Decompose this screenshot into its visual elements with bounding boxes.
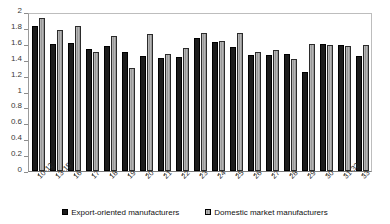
y-axis-tick-label: 1.4 bbox=[11, 55, 22, 63]
y-axis-tick-label: 1 bbox=[18, 87, 22, 95]
x-axis-tick: 22 bbox=[173, 173, 191, 203]
bar-export bbox=[32, 26, 38, 171]
bar-domestic bbox=[93, 52, 99, 171]
bar-group bbox=[353, 14, 371, 171]
x-axis-tick: 30 bbox=[317, 173, 335, 203]
bar-domestic bbox=[309, 44, 315, 171]
legend-swatch-domestic-icon bbox=[205, 209, 211, 215]
bar-domestic bbox=[273, 50, 279, 171]
bar-domestic bbox=[327, 45, 333, 171]
bar-group bbox=[335, 14, 353, 171]
x-axis-tick: 24 bbox=[209, 173, 227, 203]
y-axis-tick-label: 2 bbox=[18, 7, 22, 15]
bar-group bbox=[173, 14, 191, 171]
x-axis-tick: 21 bbox=[155, 173, 173, 203]
bar-domestic bbox=[201, 33, 207, 171]
bar-export bbox=[122, 52, 128, 171]
bar-export bbox=[68, 43, 74, 171]
bar-export bbox=[356, 56, 362, 171]
bar-export bbox=[212, 42, 218, 171]
bar-domestic bbox=[255, 52, 261, 171]
x-axis-tick: 16 bbox=[65, 173, 83, 203]
bar-group bbox=[263, 14, 281, 171]
bar-series-container bbox=[29, 14, 371, 171]
x-axis-tick: 25 bbox=[227, 173, 245, 203]
bar-domestic bbox=[129, 68, 135, 171]
bar-group bbox=[245, 14, 263, 171]
bar-export bbox=[50, 44, 56, 171]
bar-domestic bbox=[111, 36, 117, 171]
bar-group bbox=[65, 14, 83, 171]
y-axis-tick-label: 1.2 bbox=[11, 71, 22, 79]
bar-export bbox=[104, 46, 110, 171]
bar-group bbox=[83, 14, 101, 171]
x-axis-tick: 27 bbox=[263, 173, 281, 203]
bar-chart: 00.20.40.60.811.21.41.61.82 10-1213-1516… bbox=[0, 0, 390, 224]
x-axis-tick: 28 bbox=[281, 173, 299, 203]
y-axis-tick-label: 0.6 bbox=[11, 118, 22, 126]
y-axis-tick-label: 0.2 bbox=[11, 150, 22, 158]
chart-legend: Export-oriented manufacturers Domestic m… bbox=[0, 203, 390, 221]
bar-export bbox=[320, 44, 326, 171]
bar-export bbox=[176, 57, 182, 171]
x-axis-tick: 17 bbox=[83, 173, 101, 203]
x-axis-tick: 18 bbox=[101, 173, 119, 203]
x-axis-tick: 13-15 bbox=[47, 173, 65, 203]
y-axis-tick-label: 0 bbox=[18, 166, 22, 174]
bar-group bbox=[299, 14, 317, 171]
bar-domestic bbox=[363, 45, 369, 171]
x-axis-tick: 26 bbox=[245, 173, 263, 203]
x-axis-tick: 33 bbox=[353, 173, 371, 203]
bar-export bbox=[284, 54, 290, 171]
bar-domestic bbox=[165, 54, 171, 171]
bar-group bbox=[281, 14, 299, 171]
bar-group bbox=[137, 14, 155, 171]
x-axis-tick: 23 bbox=[191, 173, 209, 203]
legend-item-domestic: Domestic market manufacturers bbox=[205, 208, 327, 217]
bar-export bbox=[266, 55, 272, 171]
bar-domestic bbox=[57, 30, 63, 171]
legend-swatch-export-icon bbox=[62, 209, 68, 215]
x-axis-tick: 31-32 bbox=[335, 173, 353, 203]
bar-group bbox=[101, 14, 119, 171]
y-axis-tick-label: 0.4 bbox=[11, 134, 22, 142]
bar-group bbox=[317, 14, 335, 171]
bar-domestic bbox=[75, 26, 81, 171]
y-axis-tick-label: 0.8 bbox=[11, 102, 22, 110]
bar-group bbox=[209, 14, 227, 171]
bar-domestic bbox=[39, 18, 45, 171]
bar-export bbox=[230, 47, 236, 171]
bar-export bbox=[158, 58, 164, 171]
bar-domestic bbox=[147, 34, 153, 171]
legend-label-domestic: Domestic market manufacturers bbox=[214, 208, 327, 217]
x-axis: 10-1213-15161718192021222324252627282930… bbox=[29, 173, 371, 203]
bar-export bbox=[86, 49, 92, 171]
bar-group bbox=[227, 14, 245, 171]
bar-export bbox=[248, 55, 254, 171]
y-axis-tick-mark bbox=[24, 172, 28, 173]
bar-group bbox=[155, 14, 173, 171]
x-axis-tick: 20 bbox=[137, 173, 155, 203]
y-axis-tick-label: 1.6 bbox=[11, 39, 22, 47]
bar-domestic bbox=[183, 48, 189, 171]
bar-export bbox=[338, 45, 344, 171]
legend-label-export: Export-oriented manufacturers bbox=[71, 208, 179, 217]
bar-domestic bbox=[345, 46, 351, 171]
x-axis-tick: 29 bbox=[299, 173, 317, 203]
bar-domestic bbox=[291, 59, 297, 171]
bar-domestic bbox=[219, 41, 225, 171]
x-axis-tick: 19 bbox=[119, 173, 137, 203]
y-axis-tick-label: 1.8 bbox=[11, 23, 22, 31]
x-axis-tick: 10-12 bbox=[29, 173, 47, 203]
bar-domestic bbox=[237, 33, 243, 171]
bar-export bbox=[140, 56, 146, 171]
bar-group bbox=[191, 14, 209, 171]
bar-group bbox=[29, 14, 47, 171]
legend-item-export: Export-oriented manufacturers bbox=[62, 208, 179, 217]
bar-group bbox=[47, 14, 65, 171]
bar-group bbox=[119, 14, 137, 171]
bar-export bbox=[194, 38, 200, 171]
bar-export bbox=[302, 72, 308, 171]
